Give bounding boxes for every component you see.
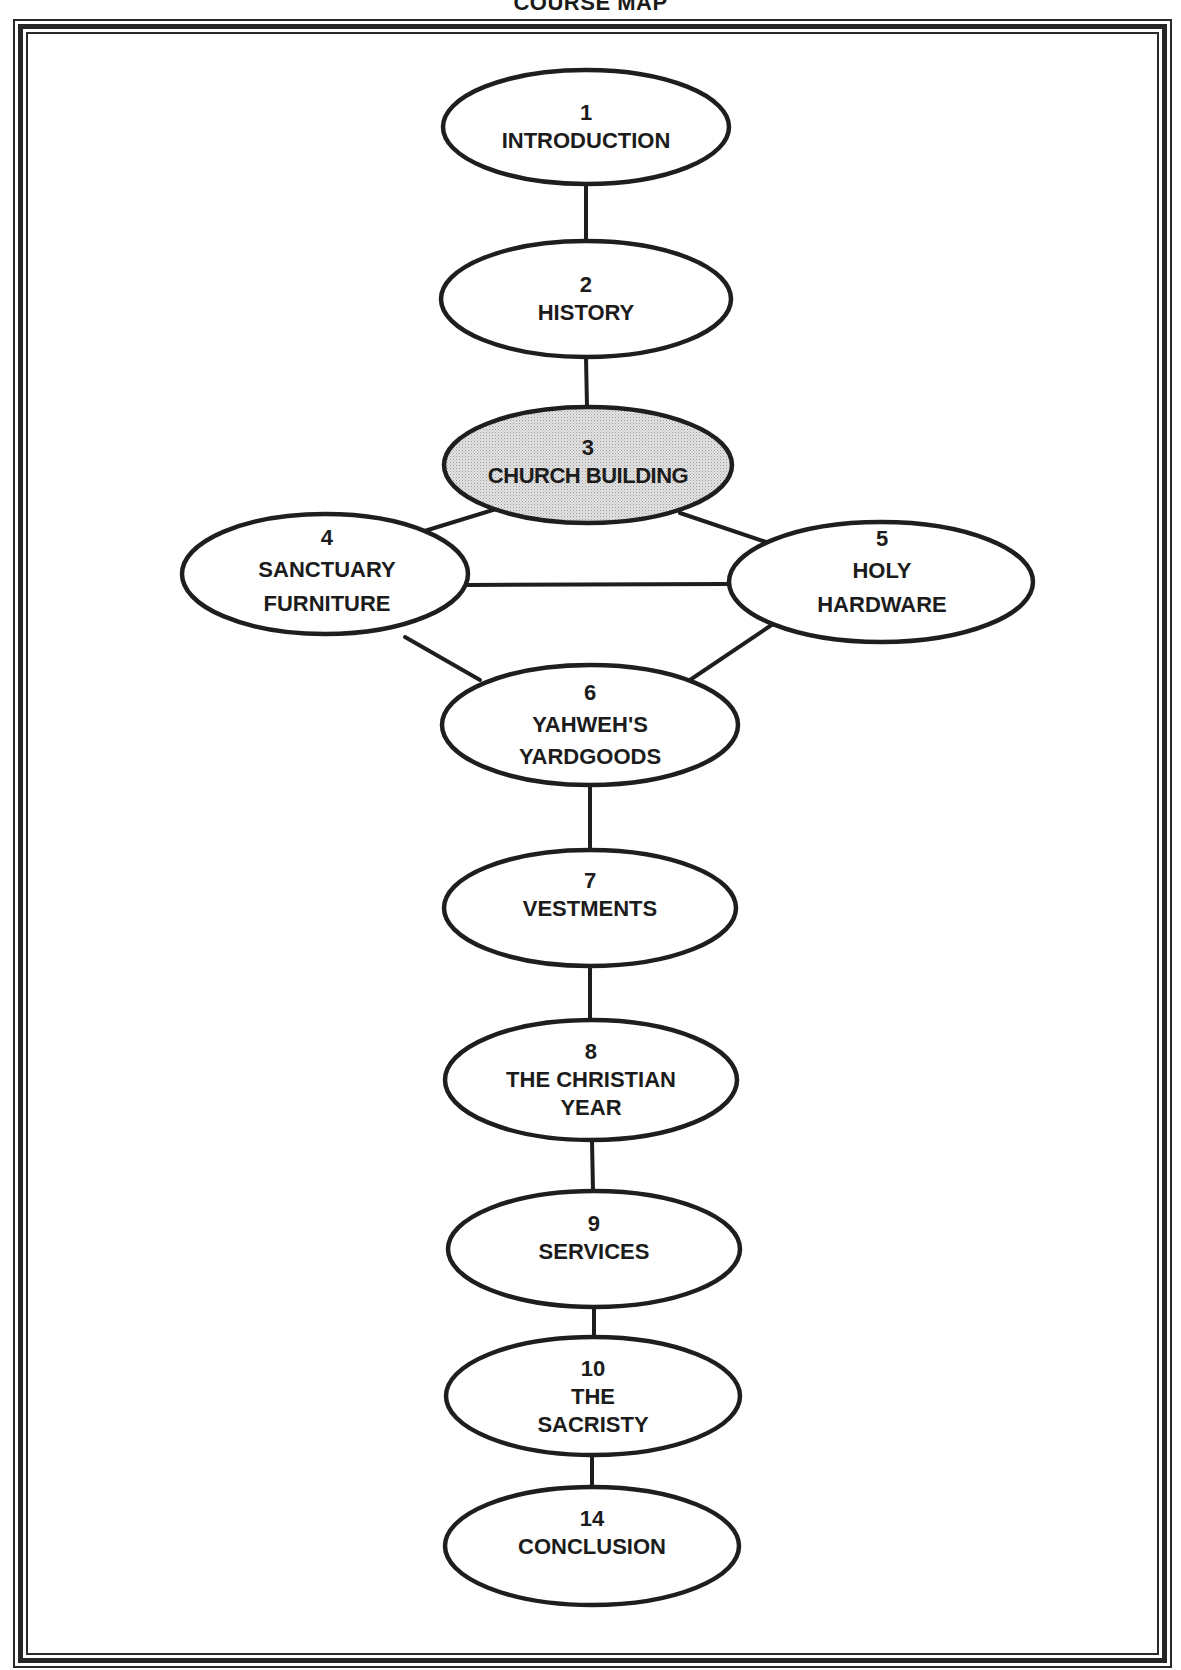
node-7-label: 7 VESTMENTS — [523, 867, 657, 923]
node-title-line-1: SANCTUARY — [258, 556, 395, 584]
node-8-label: 8 THE CHRISTIAN YEAR — [506, 1038, 676, 1122]
node-title: SERVICES — [539, 1238, 650, 1266]
node-number: 1 — [502, 99, 671, 127]
edge-3-5 — [680, 513, 775, 545]
node-number: 4 — [258, 524, 395, 552]
edge-8-9 — [592, 1140, 593, 1191]
node-title: HISTORY — [538, 299, 635, 327]
node-title-line-2: HARDWARE — [817, 591, 947, 619]
node-10-label: 10 THE SACRISTY — [537, 1355, 648, 1439]
node-title: CHURCH BUILDING — [488, 462, 688, 490]
node-title-line-1: THE — [537, 1383, 648, 1411]
node-number: 3 — [488, 434, 688, 462]
node-title: INTRODUCTION — [502, 127, 671, 155]
node-number: 8 — [506, 1038, 676, 1066]
node-14-label: 14 CONCLUSION — [518, 1505, 666, 1561]
edge-4-5 — [468, 584, 728, 585]
node-3-label: 3 CHURCH BUILDING — [488, 434, 688, 490]
node-title-line-2: YEAR — [506, 1094, 676, 1122]
node-title-line-2: YARDGOODS — [519, 743, 661, 771]
node-1-label: 1 INTRODUCTION — [502, 99, 671, 155]
node-6-label: 6 YAHWEH'S YARDGOODS — [519, 679, 661, 771]
node-9-label: 9 SERVICES — [539, 1210, 650, 1266]
node-number: 5 — [817, 525, 947, 553]
node-title-line-1: THE CHRISTIAN — [506, 1066, 676, 1094]
node-5-label: 5 HOLY HARDWARE — [817, 525, 947, 619]
node-2-label: 2 HISTORY — [538, 271, 635, 327]
node-number: 10 — [537, 1355, 648, 1383]
node-number: 14 — [518, 1505, 666, 1533]
node-number: 7 — [523, 867, 657, 895]
node-title-line-1: HOLY — [817, 557, 947, 585]
edge-5-6 — [684, 622, 776, 684]
node-number: 9 — [539, 1210, 650, 1238]
node-title: CONCLUSION — [518, 1533, 666, 1561]
edge-2-3 — [586, 357, 587, 407]
node-title-line-2: SACRISTY — [537, 1411, 648, 1439]
node-4-label: 4 SANCTUARY FURNITURE — [258, 524, 395, 618]
node-title-line-2: FURNITURE — [258, 590, 395, 618]
node-title-line-1: YAHWEH'S — [519, 711, 661, 739]
edge-4-6 — [405, 637, 480, 680]
node-number: 2 — [538, 271, 635, 299]
node-number: 6 — [519, 679, 661, 707]
node-title: VESTMENTS — [523, 895, 657, 923]
